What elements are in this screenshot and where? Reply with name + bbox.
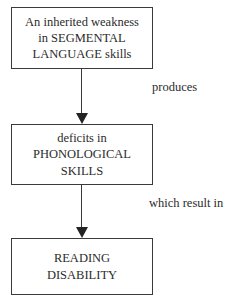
edge-label-produces: produces (152, 80, 197, 95)
node-phonological-deficits-line-1: deficits in (57, 130, 107, 146)
node-phonological-deficits-line-3: SKILLS (61, 163, 103, 179)
flowchart-diagram: An inherited weakness in SEGMENTAL LANGU… (0, 0, 232, 306)
node-reading-disability-line-2: DISABILITY (47, 267, 117, 283)
node-inherited-weakness-line-2: in SEGMENTAL (38, 30, 126, 46)
node-inherited-weakness: An inherited weakness in SEGMENTAL LANGU… (11, 7, 153, 69)
node-inherited-weakness-line-3: LANGUAGE skills (33, 46, 132, 62)
arrow-shaft (81, 185, 82, 228)
arrow-shaft (81, 69, 82, 114)
arrow-head (76, 113, 88, 124)
node-reading-disability-line-1: READING (54, 250, 110, 266)
node-phonological-deficits-line-2: PHONOLOGICAL (33, 146, 131, 162)
node-reading-disability: READING DISABILITY (11, 238, 153, 295)
arrow-down-icon-phonological-to-reading (75, 185, 89, 238)
arrow-down-icon-weakness-to-phonological (75, 69, 89, 124)
arrow-head (76, 227, 88, 238)
edge-label-which-result-in: which result in (149, 196, 223, 211)
node-inherited-weakness-line-1: An inherited weakness (25, 14, 139, 30)
node-phonological-deficits: deficits in PHONOLOGICAL SKILLS (11, 124, 153, 185)
